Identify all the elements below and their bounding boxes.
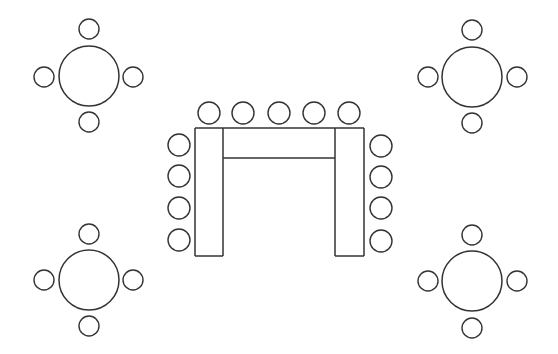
chair: [168, 197, 190, 219]
chair: [338, 102, 360, 124]
round-table: [442, 251, 502, 311]
round-table-top-right: [418, 20, 527, 133]
chair: [507, 271, 527, 291]
chair: [34, 67, 54, 87]
chair: [370, 166, 392, 188]
chair: [370, 197, 392, 219]
chair: [418, 67, 438, 87]
u-shape-table-group: [168, 102, 392, 256]
round-table: [59, 46, 119, 106]
round-table-bottom-left: [34, 224, 143, 336]
chair: [168, 134, 190, 156]
seating-diagram: Seating layout: U-shape conference table…: [0, 0, 558, 354]
chair: [462, 113, 482, 133]
chair: [462, 225, 482, 245]
chair: [268, 102, 290, 124]
chair: [462, 20, 482, 40]
round-tables: [34, 19, 527, 338]
chair: [79, 224, 99, 244]
chair: [198, 102, 220, 124]
round-table-top-left: [34, 19, 143, 132]
chair: [79, 19, 99, 39]
chair: [123, 270, 143, 290]
chair: [79, 316, 99, 336]
chair: [507, 67, 527, 87]
chair: [168, 165, 190, 187]
chair: [34, 270, 54, 290]
round-table-bottom-right: [418, 225, 527, 338]
u-shape-table: [168, 102, 392, 256]
round-table: [59, 250, 119, 310]
u-table-outline: [195, 128, 364, 256]
chair: [418, 271, 438, 291]
chair: [79, 112, 99, 132]
chair: [123, 67, 143, 87]
chair: [462, 318, 482, 338]
round-table: [442, 47, 502, 107]
seating-diagram-svg: Seating layout: U-shape conference table…: [0, 0, 558, 354]
chair: [370, 230, 392, 252]
chair: [303, 102, 325, 124]
u-table-chairs: [168, 102, 392, 252]
chair: [168, 229, 190, 251]
chair: [370, 135, 392, 157]
chair: [232, 102, 254, 124]
